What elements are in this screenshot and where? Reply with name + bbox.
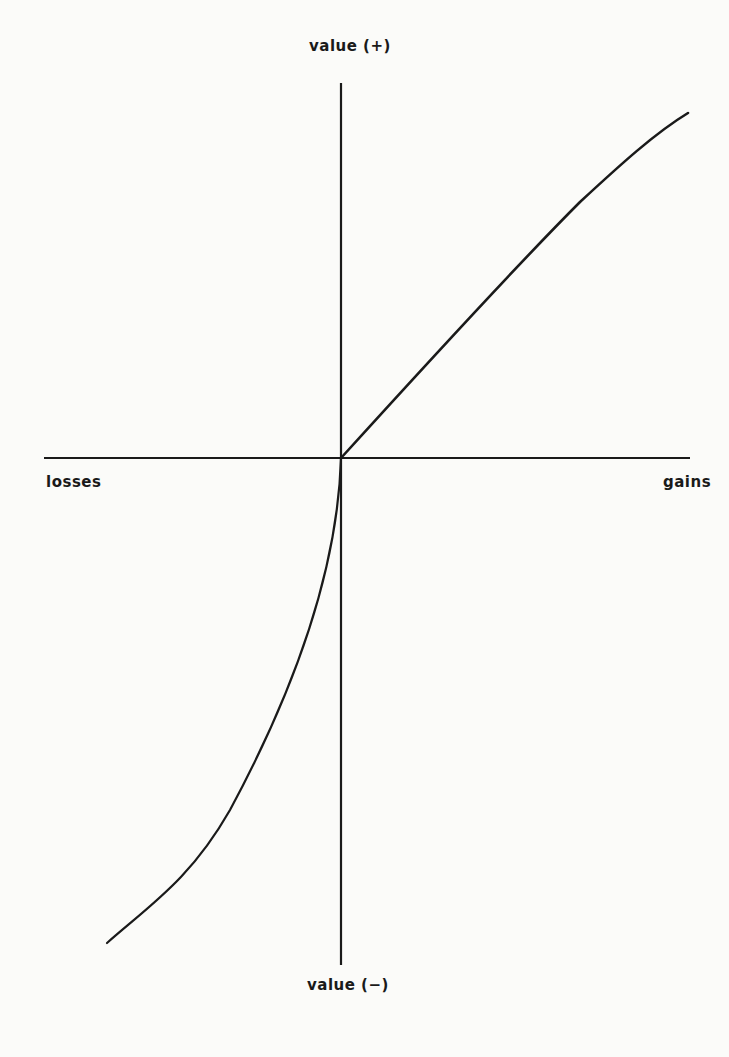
x-axis-gains-label: gains xyxy=(663,473,711,491)
losses-curve xyxy=(107,458,341,943)
y-axis-positive-label: value (+) xyxy=(309,37,391,55)
value-function-diagram xyxy=(0,0,729,1057)
gains-curve xyxy=(341,113,688,458)
x-axis-losses-label: losses xyxy=(46,473,101,491)
y-axis-negative-label: value (−) xyxy=(307,976,389,994)
